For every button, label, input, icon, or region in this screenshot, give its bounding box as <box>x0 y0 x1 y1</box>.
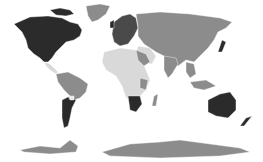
region-australia[interactable] <box>208 92 236 118</box>
region-antarctica-east[interactable] <box>102 140 250 158</box>
region-new-zealand[interactable] <box>240 116 252 126</box>
region-india[interactable] <box>164 56 178 78</box>
region-greenland[interactable] <box>86 4 110 22</box>
region-south-africa[interactable] <box>128 96 142 112</box>
region-antarctica-west[interactable] <box>20 140 78 154</box>
region-europe[interactable] <box>112 14 138 46</box>
region-uk[interactable] <box>110 20 114 28</box>
region-central-america[interactable] <box>44 62 58 74</box>
region-indonesia[interactable] <box>190 80 216 90</box>
region-canada-islands[interactable] <box>50 8 74 16</box>
region-argentina[interactable] <box>62 96 76 128</box>
region-southeast-asia[interactable] <box>186 62 196 78</box>
region-japan[interactable] <box>218 40 226 52</box>
world-map <box>0 0 263 162</box>
region-north-america[interactable] <box>14 16 82 62</box>
region-madagascar[interactable] <box>152 94 158 106</box>
